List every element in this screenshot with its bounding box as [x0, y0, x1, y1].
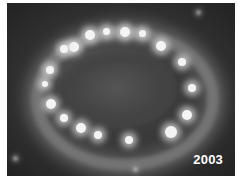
hotspot	[182, 110, 192, 120]
hotspot	[46, 66, 54, 74]
hotspot	[188, 84, 196, 92]
hotspot	[120, 27, 130, 37]
hotspot	[42, 81, 48, 87]
hotspot	[69, 42, 79, 52]
hotspot	[60, 45, 68, 53]
hotspot	[125, 136, 133, 144]
hotspot	[178, 58, 186, 66]
hotspot	[165, 126, 177, 138]
background-star	[13, 156, 18, 161]
background-star	[133, 167, 138, 172]
hotspot	[103, 28, 110, 35]
hotspot	[76, 123, 86, 133]
year-label: 2003	[193, 152, 223, 167]
background-star	[196, 10, 201, 15]
hotspot	[94, 131, 102, 139]
hotspot	[60, 114, 68, 122]
hotspot	[139, 30, 146, 37]
hotspot	[156, 41, 166, 51]
hotspot	[46, 99, 56, 109]
astronomical-photo: 2003	[7, 3, 235, 176]
hotspot	[85, 30, 95, 40]
